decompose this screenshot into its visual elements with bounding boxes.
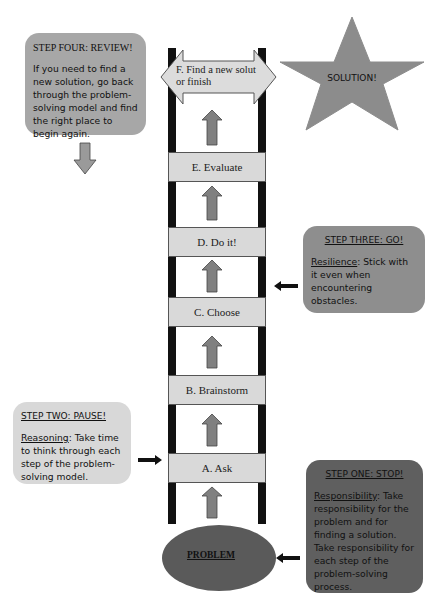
left-arrow-icon-problem — [0, 0, 445, 611]
